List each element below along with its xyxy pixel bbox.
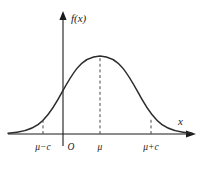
normal-distribution-figure: f(x) x μ−c O μ μ+c xyxy=(0,0,204,178)
x-axis xyxy=(8,130,196,137)
y-axis-arrowhead xyxy=(59,11,66,20)
y-axis xyxy=(59,11,66,146)
y-axis-label: f(x) xyxy=(71,12,87,25)
tick-label-mu-plus-c: μ+c xyxy=(142,142,159,152)
x-axis-arrowhead xyxy=(186,130,196,137)
tick-label-mu: μ xyxy=(97,142,103,152)
origin-label: O xyxy=(68,142,75,152)
x-axis-label: x xyxy=(177,115,183,127)
figure-canvas: f(x) x μ−c O μ μ+c xyxy=(0,0,204,178)
tick-label-mu-minus-c: μ−c xyxy=(34,142,51,152)
